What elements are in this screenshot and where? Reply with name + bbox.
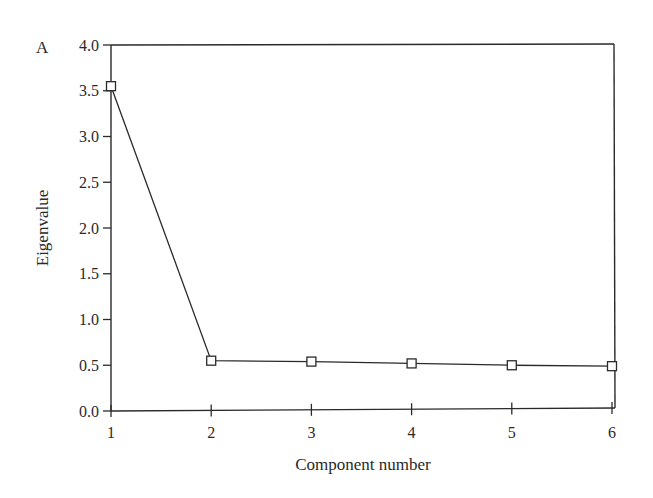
data-series (107, 82, 617, 371)
y-tick-label: 0.5 (79, 357, 99, 374)
x-axis-label: Component number (295, 455, 431, 474)
panel-label: A (36, 38, 49, 57)
y-tick-label: 3.5 (79, 82, 99, 99)
x-tick-label: 6 (608, 424, 616, 441)
square-marker-icon (107, 82, 116, 91)
x-tick-label: 4 (408, 424, 416, 441)
square-marker-icon (207, 356, 216, 365)
square-marker-icon (608, 362, 617, 371)
y-tick-label: 1.5 (79, 265, 99, 282)
y-tick-label: 2.5 (79, 174, 99, 191)
y-tick-label: 4.0 (79, 37, 99, 54)
y-axis-label: Eigenvalue (33, 190, 52, 266)
square-marker-icon (307, 357, 316, 366)
series-line (111, 86, 612, 366)
y-tick-label: 2.0 (79, 220, 99, 237)
x-tick-label: 2 (207, 424, 215, 441)
x-tick-label: 5 (508, 424, 516, 441)
y-tick-label: 0.0 (79, 403, 99, 420)
x-tick-label: 3 (307, 424, 315, 441)
x-tick-label: 1 (107, 424, 115, 441)
y-tick-label: 1.0 (79, 311, 99, 328)
y-axis-ticks: 0.00.51.01.52.02.53.03.54.0 (79, 37, 111, 420)
right-border (614, 44, 615, 408)
y-tick-label: 3.0 (79, 128, 99, 145)
x-axis-line (111, 408, 615, 411)
scree-plot: 0.00.51.01.52.02.53.03.54.0 123456 A Com… (0, 0, 653, 498)
square-marker-icon (507, 361, 516, 370)
square-marker-icon (407, 359, 416, 368)
plot-frame (111, 44, 615, 411)
top-border (111, 44, 614, 45)
